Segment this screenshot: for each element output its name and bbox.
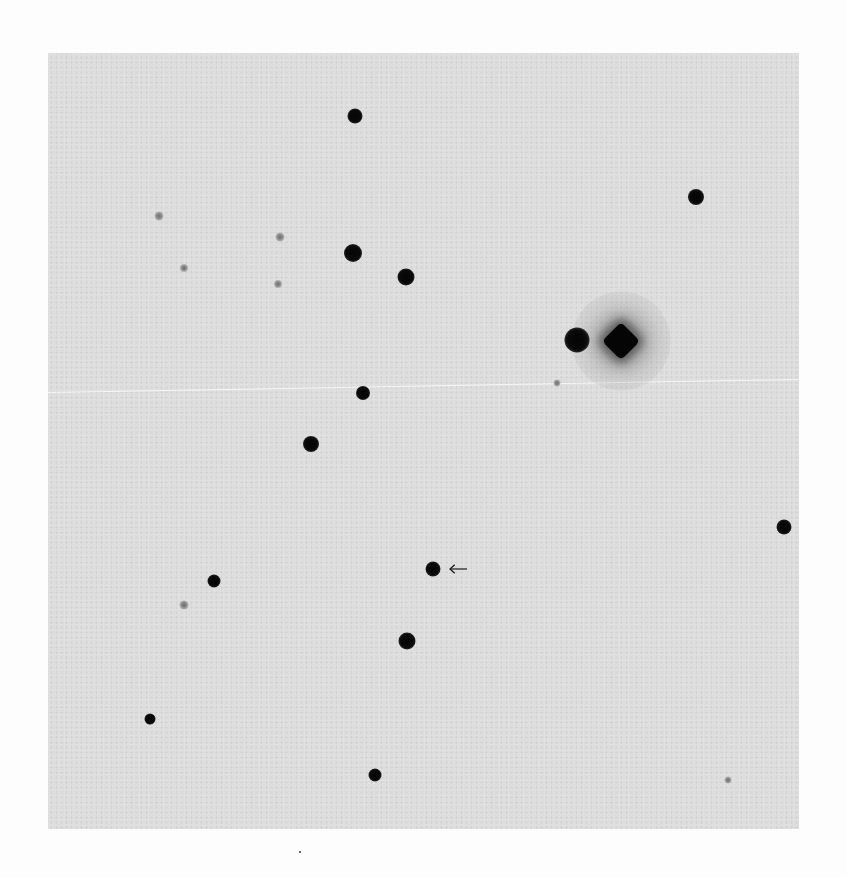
faint-star xyxy=(554,380,561,387)
faint-star xyxy=(155,212,164,221)
star xyxy=(356,386,370,400)
star xyxy=(398,269,415,286)
faint-star xyxy=(274,280,282,288)
finding-chart-page xyxy=(0,0,847,877)
star xyxy=(426,562,441,577)
target-arrow-icon xyxy=(449,563,468,575)
faint-star xyxy=(725,777,732,784)
dust-speck xyxy=(299,851,301,853)
star xyxy=(344,244,362,262)
faint-star xyxy=(180,264,188,272)
star xyxy=(145,714,156,725)
star xyxy=(369,769,382,782)
star xyxy=(399,633,416,650)
star xyxy=(565,328,590,353)
star xyxy=(303,436,319,452)
star xyxy=(777,520,792,535)
star xyxy=(688,189,704,205)
faint-star xyxy=(180,601,189,610)
plate-scratch xyxy=(48,379,799,393)
faint-star xyxy=(276,233,285,242)
star-field-plate xyxy=(48,53,799,829)
star xyxy=(208,575,221,588)
star xyxy=(348,109,363,124)
